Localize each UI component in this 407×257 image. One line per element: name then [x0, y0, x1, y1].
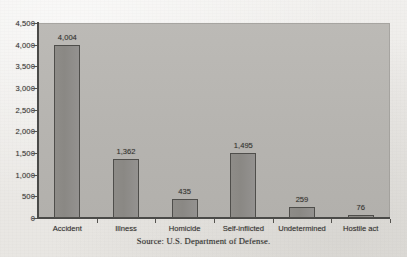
y-tick [32, 196, 37, 197]
x-tick-label: Hostile act [343, 224, 378, 233]
y-tick-label: 1,000 [1, 170, 35, 179]
y-tick [32, 153, 37, 154]
y-tick-label: 2,500 [1, 105, 35, 114]
bar [113, 159, 139, 218]
y-tick [32, 88, 37, 89]
x-tick [214, 219, 215, 223]
x-tick [390, 219, 391, 223]
bar-slot: 259 [273, 23, 332, 218]
bar [348, 215, 374, 218]
x-tick [273, 219, 274, 223]
bar-value-label: 1,495 [234, 141, 253, 150]
bar-slot: 4,004 [38, 23, 97, 218]
bar [54, 45, 80, 219]
y-tick-label: 3,500 [1, 62, 35, 71]
x-tick [331, 219, 332, 223]
x-tick [155, 219, 156, 223]
bar-slot: 1,362 [97, 23, 156, 218]
bar-value-label: 4,004 [58, 33, 77, 42]
y-tick-label: 2,000 [1, 127, 35, 136]
x-tick-label: Accident [53, 224, 82, 233]
bar-value-label: 76 [356, 203, 364, 212]
x-tick-label: Homicide [169, 224, 201, 233]
bar [172, 199, 198, 218]
y-tick-label: 4,000 [1, 40, 35, 49]
bar [230, 153, 256, 218]
y-tick [32, 66, 37, 67]
x-tick-label: Illness [115, 224, 137, 233]
y-tick [32, 45, 37, 46]
bar [289, 207, 315, 218]
bar-value-label: 435 [178, 187, 191, 196]
bar-slot: 435 [155, 23, 214, 218]
y-tick-label: 500 [1, 192, 35, 201]
y-tick-label: 0 [1, 214, 35, 223]
y-tick [32, 131, 37, 132]
x-tick-label: Self-inflicted [223, 224, 264, 233]
bar-chart: 05001,0001,5002,0002,5003,0003,5004,0004… [0, 0, 407, 257]
bar-value-label: 1,362 [116, 147, 135, 156]
bar-slot: 1,495 [214, 23, 273, 218]
source-caption: Source: U.S. Department of Defense. [0, 236, 407, 246]
y-tick-label: 3,000 [1, 84, 35, 93]
y-tick [32, 175, 37, 176]
y-tick-label: 1,500 [1, 149, 35, 158]
y-tick [32, 218, 37, 219]
bar-slot: 76 [331, 23, 390, 218]
x-tick [97, 219, 98, 223]
y-tick-label: 4,500 [1, 19, 35, 28]
bar-value-label: 259 [296, 195, 309, 204]
y-axis-labels: 05001,0001,5002,0002,5003,0003,5004,0004… [0, 0, 35, 257]
bar-series: 4,0041,3624351,49525976 [38, 23, 390, 218]
y-tick [32, 23, 37, 24]
y-tick [32, 110, 37, 111]
x-tick-label: Undetermined [278, 224, 326, 233]
